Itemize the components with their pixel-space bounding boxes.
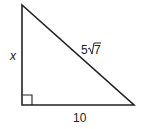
vertical-leg-label: x — [9, 49, 17, 63]
horizontal-leg-label: 10 — [73, 111, 87, 125]
hypotenuse-label: 5 7 — [81, 43, 101, 57]
triangle-shape — [22, 5, 134, 105]
hypotenuse-radicand: 7 — [94, 43, 101, 57]
right-triangle-figure: x 5 7 10 — [0, 0, 143, 129]
right-angle-marker — [22, 95, 32, 105]
hypotenuse-coefficient: 5 — [81, 43, 88, 57]
